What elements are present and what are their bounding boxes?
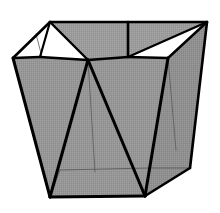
polyhedral-vessel-drawing [0,0,220,213]
figure-root: Grayscale line drawing of an open-topped… [0,0,220,213]
edge-base-front [50,196,145,197]
edge-rim-front-left [13,57,40,58]
edge-rim-front-right [128,57,168,58]
